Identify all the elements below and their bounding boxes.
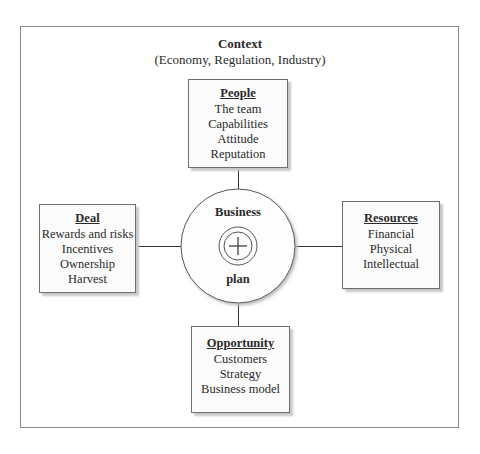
deal-box: Deal Rewards and risks Incentives Owners…: [39, 204, 136, 293]
deal-item: Ownership: [40, 257, 135, 272]
people-box: People The team Capabilities Attitude Re…: [188, 79, 288, 168]
people-item: The team: [189, 102, 287, 117]
center-top-label: Business: [178, 205, 298, 220]
center-bottom-label: plan: [178, 272, 298, 287]
deal-heading: Deal: [40, 211, 135, 226]
opportunity-item: Business model: [192, 382, 289, 397]
opportunity-item: Customers: [192, 352, 289, 367]
opportunity-item: Strategy: [192, 367, 289, 382]
deal-item: Incentives: [40, 242, 135, 257]
resources-item: Physical: [343, 242, 439, 257]
people-heading: People: [189, 86, 287, 101]
people-item: Attitude: [189, 132, 287, 147]
opportunity-heading: Opportunity: [192, 336, 289, 351]
resources-item: Intellectual: [343, 257, 439, 272]
people-item: Reputation: [189, 147, 287, 162]
opportunity-box: Opportunity Customers Strategy Business …: [191, 326, 290, 413]
deal-item: Harvest: [40, 272, 135, 287]
resources-heading: Resources: [343, 211, 439, 226]
resources-box: Resources Financial Physical Intellectua…: [342, 201, 440, 289]
people-item: Capabilities: [189, 117, 287, 132]
deal-item: Rewards and risks: [40, 227, 135, 242]
resources-item: Financial: [343, 227, 439, 242]
